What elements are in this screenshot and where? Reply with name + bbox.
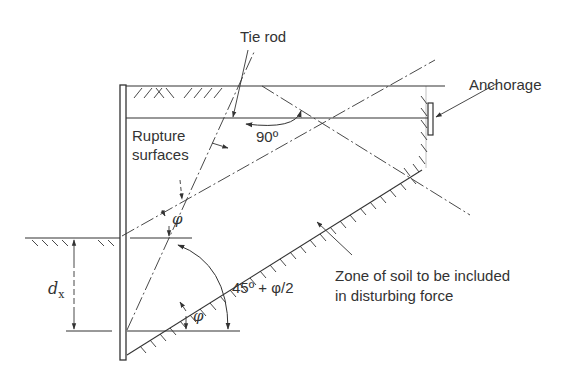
rupture-label-line1: Rupture [132,127,185,144]
angle-45-label: 45º + φ/2 [232,279,294,296]
anchored-sheet-pile-diagram: Tie rod Anchorage Rupture surfaces 90º φ… [0,0,571,375]
tie-rod-leader [233,50,248,117]
upper-phi-arrows [162,210,169,236]
retained-ground-surface [126,86,445,98]
anchorage-label: Anchorage [469,76,542,93]
phi-upper-label: φ [172,210,183,228]
phi-lower-label: φ [193,307,204,325]
zone-leader [317,222,352,255]
sheet-pile-wall [120,85,126,360]
zone-label-line2: in disturbing force [335,287,453,304]
tie-rod-label: Tie rod [240,28,286,45]
angle-90-label: 90º [256,128,279,145]
dx-label: dx [48,279,65,301]
zone-label-line1: Zone of soil to be included [335,267,510,284]
rupture-label-line2: surfaces [132,146,189,163]
